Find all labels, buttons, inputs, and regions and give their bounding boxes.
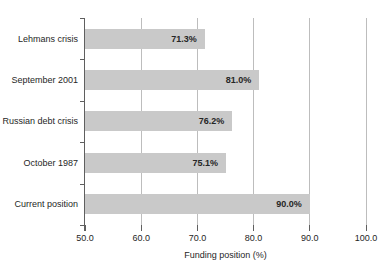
- category-label-october-1987: October 1987: [0, 142, 80, 183]
- category-label-september-2001: September 2001: [0, 59, 80, 100]
- y-tick-mark: [80, 142, 84, 143]
- bar-value-label: 76.2%: [199, 111, 225, 131]
- bar-row-1: 81.0%: [85, 59, 366, 100]
- x-tick-label-60.0: 60.0: [132, 233, 150, 243]
- x-axis-title: Funding position (%): [85, 250, 366, 260]
- category-label-lehmans-crisis: Lehmans crisis: [0, 18, 80, 59]
- bar-value-label: 71.3%: [171, 29, 197, 49]
- y-tick-mark: [80, 18, 84, 19]
- x-tick-label-70.0: 70.0: [189, 233, 207, 243]
- plot-area: 71.3%81.0%76.2%75.1%90.0%: [85, 18, 366, 225]
- category-axis-labels: Lehmans crisisSeptember 2001Russian debt…: [0, 18, 80, 225]
- category-label-russian-debt-crisis: Russian debt crisis: [0, 101, 80, 142]
- x-tick-mark-80.0: [253, 225, 254, 231]
- y-tick-mark: [80, 184, 84, 185]
- bar-value-label: 75.1%: [193, 153, 219, 173]
- bar-row-4: 90.0%: [85, 184, 366, 225]
- x-tick-mark-70.0: [197, 225, 198, 231]
- bar-october-1987: 75.1%: [85, 153, 226, 173]
- bar-september-2001: 81.0%: [85, 70, 259, 90]
- x-tick-mark-60.0: [141, 225, 142, 231]
- y-tick-mark: [80, 101, 84, 102]
- category-label-current-position: Current position: [0, 184, 80, 225]
- y-tick-mark: [80, 225, 84, 226]
- bar-lehmans-crisis: 71.3%: [85, 29, 205, 49]
- bar-row-3: 75.1%: [85, 142, 366, 183]
- x-tick-label-80.0: 80.0: [245, 233, 263, 243]
- x-tick-mark-90.0: [309, 225, 310, 231]
- x-tick-label-50.0: 50.0: [76, 233, 94, 243]
- bar-row-2: 76.2%: [85, 101, 366, 142]
- y-tick-mark: [80, 59, 84, 60]
- bar-row-0: 71.3%: [85, 18, 366, 59]
- funding-position-bar-chart: 71.3%81.0%76.2%75.1%90.0% Lehmans crisis…: [0, 0, 383, 265]
- bar-russian-debt-crisis: 76.2%: [85, 111, 232, 131]
- x-tick-label-90.0: 90.0: [301, 233, 319, 243]
- bar-series: 71.3%81.0%76.2%75.1%90.0%: [85, 18, 366, 225]
- bar-current-position: 90.0%: [85, 194, 310, 214]
- y-axis-line: [84, 18, 85, 231]
- x-tick-mark-100.0: [366, 225, 367, 231]
- bar-value-label: 90.0%: [276, 194, 302, 214]
- x-tick-label-100.0: 100.0: [355, 233, 378, 243]
- bar-value-label: 81.0%: [226, 70, 252, 90]
